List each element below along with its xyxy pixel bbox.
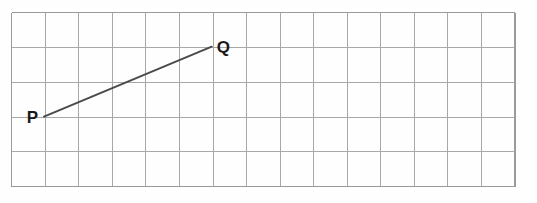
grid-diagram: PQ <box>0 0 537 203</box>
diagram-canvas: PQ <box>0 0 537 203</box>
segment-pq <box>44 47 212 117</box>
vertex-label-p: P <box>27 108 38 127</box>
vertex-label-q: Q <box>217 38 230 57</box>
segment-pq <box>44 47 212 117</box>
